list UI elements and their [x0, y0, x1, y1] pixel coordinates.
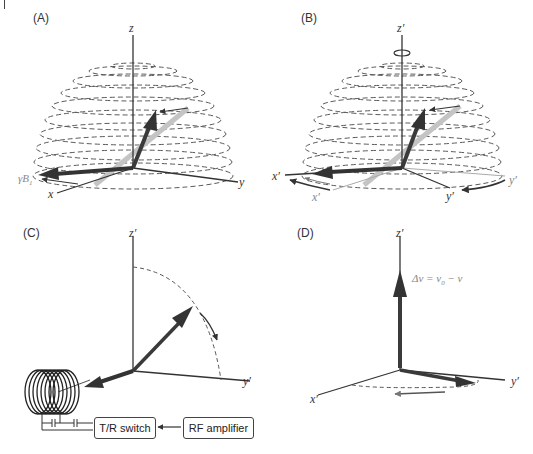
- axis-label-x: x: [48, 188, 53, 200]
- magnetization-arrowhead: [143, 110, 157, 131]
- field-label-text: γB: [18, 172, 29, 184]
- magnetization-arrowhead: [411, 108, 425, 130]
- panel-label-d: (D): [297, 227, 314, 239]
- magnetization-arrowhead: [393, 270, 407, 297]
- axis-label-z-prime: z′: [396, 227, 403, 239]
- panel-label-c: (C): [23, 227, 40, 239]
- y-rotation-arrow: [462, 180, 505, 190]
- magnetization-vector: [133, 125, 150, 168]
- frequency-offset-equation: Δν = ν0 − ν: [412, 273, 462, 287]
- b1-small-arrow: [42, 179, 78, 184]
- panel-label-a: (A): [33, 12, 49, 24]
- field-label-subscript: 1: [29, 179, 33, 187]
- axis-label-z: z: [129, 22, 134, 34]
- panel-c: [25, 236, 250, 430]
- rf-amplifier-block: RF amplifier: [183, 417, 254, 439]
- axis-label-y-prime: y′: [243, 375, 251, 387]
- magnetization-vector: [402, 125, 418, 168]
- axis-label-y-prime: y′: [446, 190, 454, 202]
- nutation-direction-arrow: [200, 313, 217, 340]
- panel-label-b: (B): [301, 12, 317, 24]
- x-prime-axis: [318, 370, 400, 395]
- axis-label-z-prime: z′: [397, 22, 404, 34]
- offset-rotation-arrow: [395, 392, 445, 394]
- b1-arrowhead: [38, 167, 59, 180]
- y-prime-axis: [133, 371, 250, 381]
- panel-d: [318, 236, 505, 395]
- axis-label-z-prime: z′: [129, 227, 136, 239]
- field-label-gamma-b1: γB1: [18, 173, 33, 187]
- equation-lhs: Δν = ν: [412, 272, 441, 284]
- axis-label-y-prime-ghost: y′: [509, 174, 517, 186]
- coil-circuit-wiring: [42, 414, 93, 430]
- panel-b: [285, 35, 505, 190]
- axis-label-x-prime: x′: [272, 170, 280, 182]
- axis-label-y: y: [239, 176, 244, 188]
- equation-rhs: − ν: [445, 272, 463, 284]
- panel-a: [33, 35, 238, 193]
- axis-label-y-prime: y′: [511, 375, 519, 387]
- b1-field-vector: [100, 371, 133, 382]
- axis-label-x-prime-ghost: x′: [312, 191, 320, 203]
- nmr-figure: [0, 0, 533, 454]
- b1-arrowhead: [84, 376, 104, 388]
- tr-switch-block: T/R switch: [94, 417, 156, 439]
- axis-label-x-prime: x′: [310, 393, 318, 405]
- rf-coil-icon: [25, 370, 90, 414]
- magnetization-vector: [133, 322, 180, 371]
